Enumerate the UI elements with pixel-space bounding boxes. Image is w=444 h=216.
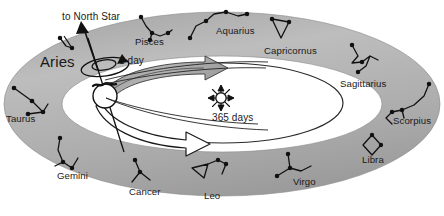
label-constellation-virgo: Virgo — [293, 177, 316, 187]
earth-globe — [93, 84, 117, 108]
label-constellation-leo: Leo — [204, 191, 220, 201]
label-constellation-scorpius: Scorpius — [393, 116, 431, 126]
label-constellation-pisces: Pisces — [135, 37, 164, 47]
label-constellation-libra: Libra — [362, 155, 384, 165]
label-one-day: 1 day — [119, 56, 144, 66]
label-constellation-gemini: Gemini — [57, 171, 88, 181]
label-constellation-cancer: Cancer — [129, 187, 161, 197]
label-constellation-sagittarius: Sagittarius — [340, 79, 386, 89]
label-constellation-taurus: Taurus — [6, 114, 35, 124]
zodiac-diagram: to North Star 1 day 365 days Aries Pisce… — [0, 0, 444, 216]
label-365-days: 365 days — [212, 113, 253, 123]
label-constellation-aquarius: Aquarius — [216, 26, 255, 36]
label-constellation-aries: Aries — [40, 54, 75, 69]
label-constellation-capricornus: Capricornus — [264, 46, 317, 56]
label-to-north-star: to North Star — [62, 12, 120, 22]
